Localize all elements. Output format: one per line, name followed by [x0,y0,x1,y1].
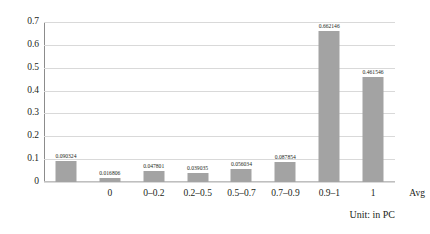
x-axis-tick-label: 0.9–1 [307,188,351,199]
x-axis-tick-label: 1 [351,188,395,199]
y-axis-tick-label: 0.6 [5,40,39,50]
y-axis-tick-label: 0.5 [5,63,39,73]
y-axis-tick-label: 0.7 [5,17,39,27]
bar-slot: 0.662146 [307,22,351,182]
bar[interactable] [275,162,296,182]
y-axis-tick-label: 0.2 [5,131,39,141]
x-axis-tick-label: 0.7–0.9 [264,188,308,199]
bar-value-label: 0.039035 [187,165,208,171]
bar-slot: 0.461546 [351,22,395,182]
y-axis-tick-label: 0.1 [5,154,39,164]
bar-slot: 0.016806 [88,22,132,182]
bar[interactable] [55,161,76,182]
bar-slot: 0.087854 [263,22,307,182]
x-axis-tick-label: 0.5–0.7 [220,188,264,199]
bar-slot: 0.047801 [132,22,176,182]
plot-area: 0.0903240.0168060.0478010.0390350.056034… [44,22,395,182]
bar-slot: 0.056034 [220,22,264,182]
y-axis-tick-label: 0.4 [5,86,39,96]
bar-value-label: 0.016806 [99,170,120,176]
bar-series: 0.0903240.0168060.0478010.0390350.056034… [44,22,395,182]
bar[interactable] [187,173,208,182]
bar-value-label: 0.461546 [363,69,384,75]
bar-value-label: 0.090324 [55,153,76,159]
y-axis-tick-label: 0 [5,177,39,187]
x-axis-tick-label: Avg [395,188,430,199]
bar[interactable] [231,169,252,182]
bar[interactable] [143,171,164,182]
bar-value-label: 0.056034 [231,161,252,167]
bar-slot: 0.039035 [176,22,220,182]
unit-caption: Unit: in PC [349,209,395,220]
bar-value-label: 0.087854 [275,154,296,160]
bar-value-label: 0.662146 [319,23,340,29]
bar[interactable] [319,31,340,182]
x-axis-tick-labels: 00–0.20.2–0.50.5–0.70.7–0.90.9–11Avg [44,0,395,20]
x-axis-tick-label: 0.2–0.5 [176,188,220,199]
x-axis-tick-label: 0–0.2 [132,188,176,199]
y-axis-tick-label: 0.3 [5,108,39,118]
bar[interactable] [363,77,384,182]
gridline [44,182,395,183]
bar[interactable] [99,178,120,182]
x-axis-tick-label: 0 [88,188,132,199]
bar-slot: 0.090324 [44,22,88,182]
bar-value-label: 0.047801 [143,163,164,169]
